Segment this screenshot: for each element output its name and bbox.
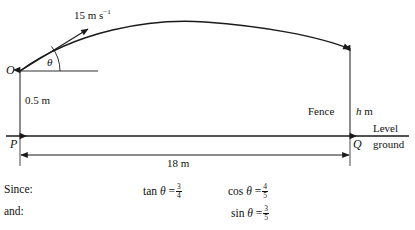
- fence-label: Fence: [308, 106, 334, 117]
- sin-denominator: 5: [263, 214, 269, 222]
- cos-fraction: 45: [262, 183, 268, 199]
- point-q-label: Q: [353, 138, 362, 150]
- speed-label: 15 m s−1: [74, 9, 111, 21]
- projectile-diagram-svg: [0, 0, 415, 230]
- working-lead-since: Since:: [4, 183, 33, 195]
- equation-sin-theta: sin θ =35: [231, 205, 269, 221]
- sin-function-label: sin: [231, 207, 244, 219]
- tan-fraction: 34: [176, 183, 182, 199]
- equation-tan-theta: tan θ =34: [143, 183, 182, 199]
- speed-value: 15 m s: [74, 9, 103, 21]
- diagram-root: 15 m s−1 θ O 0.5 m Fence h m P Q Level g…: [0, 0, 415, 230]
- cos-equals-sign: =: [255, 185, 262, 197]
- fence-height-unit: m: [364, 105, 373, 117]
- initial-height-label: 0.5 m: [25, 95, 50, 106]
- tan-denominator: 4: [176, 192, 182, 200]
- ground-label-line1: Level: [373, 123, 398, 134]
- ground-label-line2: ground: [373, 139, 404, 150]
- equation-cos-theta: cos θ =45: [228, 183, 268, 199]
- tan-equals-sign: =: [168, 185, 175, 197]
- horizontal-distance-label: 18 m: [167, 158, 189, 169]
- fence-height-label: h m: [356, 106, 373, 117]
- sin-equals-sign: =: [256, 207, 263, 219]
- cos-denominator: 5: [262, 192, 268, 200]
- trajectory-curve: [20, 21, 350, 71]
- working-lead-and: and:: [4, 205, 24, 217]
- angle-label: θ: [47, 57, 52, 68]
- sin-fraction: 35: [263, 205, 269, 221]
- tan-function-label: tan: [143, 185, 157, 197]
- origin-label: O: [6, 64, 15, 76]
- speed-exponent: −1: [103, 8, 110, 16]
- cos-function-label: cos: [228, 185, 243, 197]
- point-p-label: P: [10, 138, 17, 150]
